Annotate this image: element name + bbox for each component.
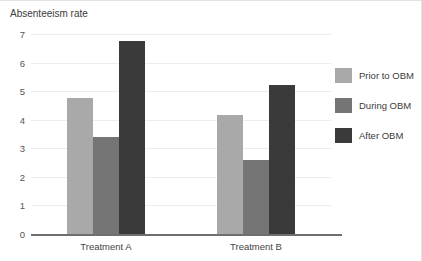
y-axis-tick-label: 7	[20, 29, 25, 40]
bar	[217, 115, 243, 234]
gridline	[31, 34, 331, 35]
plot-area	[31, 34, 331, 234]
bar	[67, 98, 93, 234]
y-axis-tick-label: 0	[20, 229, 25, 240]
legend-label: During OBM	[359, 100, 411, 111]
chart-figure: Absenteeism rate 01234567 Prior to OBMDu…	[0, 0, 422, 261]
legend-swatch-icon	[335, 68, 352, 83]
bar	[243, 160, 269, 234]
y-axis-tick-labels: 01234567	[0, 34, 25, 234]
y-axis-tick-label: 6	[20, 57, 25, 68]
y-axis-tick-label: 5	[20, 86, 25, 97]
y-axis-tick-label: 3	[20, 143, 25, 154]
y-axis-tick-label: 2	[20, 171, 25, 182]
x-axis-category-label: Treatment B	[230, 241, 282, 252]
bar	[93, 137, 119, 234]
legend-swatch-icon	[335, 98, 352, 113]
chart-title: Absenteeism rate	[10, 8, 88, 19]
legend-swatch-icon	[335, 128, 352, 143]
legend-label: After OBM	[359, 130, 403, 141]
x-axis-category-label: Treatment A	[80, 241, 131, 252]
chart-legend: Prior to OBMDuring OBMAfter OBM	[335, 65, 421, 155]
x-axis-line	[31, 234, 342, 236]
y-axis-tick-label: 4	[20, 114, 25, 125]
y-axis-tick-label: 1	[20, 200, 25, 211]
bar	[269, 85, 295, 234]
legend-label: Prior to OBM	[359, 70, 414, 81]
bar	[119, 41, 145, 234]
legend-item[interactable]: During OBM	[335, 95, 421, 115]
legend-item[interactable]: Prior to OBM	[335, 65, 421, 85]
gridline	[31, 63, 331, 64]
legend-item[interactable]: After OBM	[335, 125, 421, 145]
